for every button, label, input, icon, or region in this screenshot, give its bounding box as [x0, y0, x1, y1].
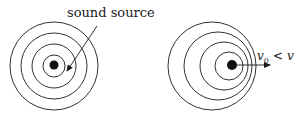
sound-source-dot — [50, 61, 59, 70]
velocity-subscript: 0 — [264, 56, 269, 65]
sound-source-pointer — [67, 26, 97, 71]
moving-source-dot — [227, 60, 237, 70]
velocity-relation: < — [273, 49, 283, 63]
sound-source-label: sound source — [67, 5, 155, 20]
wavefront-3 — [200, 42, 248, 90]
wavefront-2 — [184, 32, 252, 100]
velocity-v: v — [287, 49, 294, 63]
moving-source-panel — [168, 22, 256, 110]
velocity-label: v0<v — [257, 49, 294, 65]
doppler-diagram: sound source v0<v — [0, 0, 302, 118]
